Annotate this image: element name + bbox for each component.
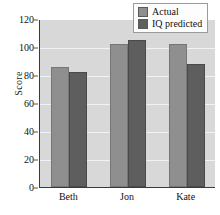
legend-swatch-icon-actual: [138, 7, 148, 17]
bar-group: [99, 20, 158, 187]
y-axis-tick-labels: 020406080100120: [8, 0, 34, 215]
y-axis-tick-label: 0: [8, 183, 34, 193]
bar: [169, 44, 187, 187]
bar: [128, 40, 146, 187]
legend-item-actual: Actual: [138, 7, 202, 17]
x-axis-tick-label: Kate: [151, 191, 220, 202]
bar-chart: Score 020406080100120 BethJonKate Actual…: [0, 0, 220, 215]
y-axis-tick-label: 60: [8, 99, 34, 109]
legend-item-iq-predicted: IQ predicted: [138, 19, 202, 29]
bar: [51, 67, 69, 187]
y-axis-tick-label: 40: [8, 127, 34, 137]
legend-label-actual: Actual: [152, 7, 179, 17]
y-axis-tick-mark: [34, 132, 38, 133]
y-axis-tick-mark: [34, 20, 38, 21]
y-axis-tick-label: 80: [8, 71, 34, 81]
legend-swatch-icon-iq-predicted: [138, 19, 148, 29]
y-axis-tick-label: 120: [8, 15, 34, 25]
plot-area: [39, 20, 215, 188]
bar: [69, 72, 87, 187]
y-axis-tick-label: 100: [8, 43, 34, 53]
bar: [110, 44, 128, 187]
y-axis-tick-mark: [34, 48, 38, 49]
y-axis-tick-mark: [34, 76, 38, 77]
y-axis-tick-mark: [34, 104, 38, 105]
chart-legend: Actual IQ predicted: [133, 3, 208, 33]
y-axis-tick-mark: [34, 160, 38, 161]
bar: [187, 64, 205, 187]
legend-label-iq-predicted: IQ predicted: [152, 19, 202, 29]
bar-group: [40, 20, 99, 187]
bar-group: [157, 20, 216, 187]
y-axis-tick-label: 20: [8, 155, 34, 165]
y-axis-tick-mark: [34, 188, 38, 189]
